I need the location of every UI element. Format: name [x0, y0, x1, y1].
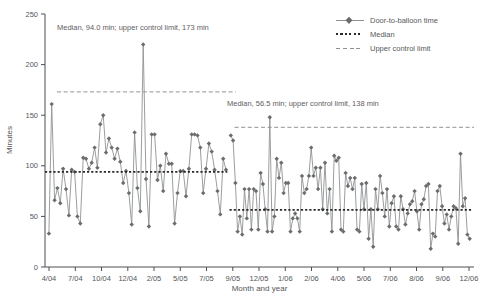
- svg-text:4/04: 4/04: [42, 274, 57, 283]
- svg-text:12/04: 12/04: [118, 274, 137, 283]
- svg-text:7/04: 7/04: [68, 274, 83, 283]
- y-axis-label: Minutes: [5, 126, 14, 154]
- svg-text:7/05: 7/05: [199, 274, 214, 283]
- svg-text:4/06: 4/06: [330, 274, 345, 283]
- phase2-annotation: Median, 56.5 min; upper control limit, 1…: [227, 99, 379, 108]
- legend-label: Upper control limit: [370, 44, 430, 53]
- svg-text:150: 150: [25, 111, 38, 120]
- svg-text:2/06: 2/06: [304, 274, 319, 283]
- svg-text:7/06: 7/06: [383, 274, 398, 283]
- legend-item-median: Median: [334, 27, 438, 41]
- svg-text:12/05: 12/05: [250, 274, 269, 283]
- line-diamond-symbol-icon: [334, 16, 364, 25]
- phase1-annotation: Median, 94.0 min; upper control limit, 1…: [57, 23, 209, 32]
- dotted-line-symbol-icon: [334, 30, 364, 39]
- svg-text:5/06: 5/06: [357, 274, 372, 283]
- svg-text:10/04: 10/04: [92, 274, 111, 283]
- svg-text:200: 200: [25, 60, 38, 69]
- svg-text:250: 250: [25, 10, 38, 19]
- svg-text:12/06: 12/06: [460, 274, 479, 283]
- svg-text:100: 100: [25, 161, 38, 170]
- svg-text:9/06: 9/06: [435, 274, 450, 283]
- legend-item-upper-control-limit: Upper control limit: [334, 41, 438, 55]
- x-axis-label: Month and year: [45, 284, 474, 293]
- chart-legend: Door-to-balloon time Median Upper contro…: [334, 13, 438, 55]
- svg-text:50: 50: [30, 212, 38, 221]
- legend-item-door-to-balloon-time: Door-to-balloon time: [334, 13, 438, 27]
- svg-text:9/05: 9/05: [225, 274, 240, 283]
- svg-text:8/06: 8/06: [409, 274, 424, 283]
- svg-text:0: 0: [34, 263, 38, 272]
- svg-text:2/05: 2/05: [147, 274, 162, 283]
- legend-label: Door-to-balloon time: [370, 16, 438, 25]
- legend-label: Median: [370, 30, 395, 39]
- svg-text:5/05: 5/05: [173, 274, 188, 283]
- dashed-line-symbol-icon: [334, 44, 364, 53]
- svg-text:1/06: 1/06: [278, 274, 293, 283]
- door-to-balloon-control-chart: 0501001502002504/047/0410/0412/042/055/0…: [0, 0, 484, 305]
